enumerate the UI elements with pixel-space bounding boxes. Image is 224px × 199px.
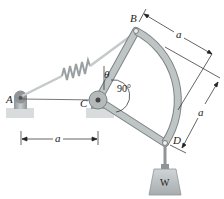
label-dim-AC: a [55,132,61,144]
ground-A [6,108,34,118]
bell-crank-BCD [89,29,178,146]
label-dim-B: a [176,28,182,40]
label-right-angle: 90° [117,83,131,94]
label-D: D [172,134,181,146]
mechanism-diagram: θ 90° W A B C D a a a [0,0,224,199]
label-weight: W [160,177,170,188]
label-C: C [80,97,88,109]
label-A: A [5,93,13,105]
label-theta: θ [104,68,110,80]
label-B: B [130,12,137,24]
label-dim-D: a [198,106,204,118]
